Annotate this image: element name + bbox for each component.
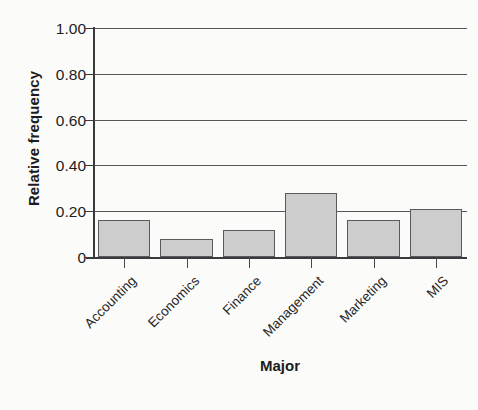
y-tick-mark — [85, 211, 93, 212]
gridline-0-8 — [93, 74, 467, 75]
y-tick-label: 0.20 — [28, 204, 86, 220]
gridline-1 — [93, 28, 467, 29]
y-tick-mark — [85, 120, 93, 121]
y-tick-label: 0.40 — [28, 158, 86, 174]
bar-management — [285, 193, 337, 257]
y-tick-label: 1.00 — [28, 21, 86, 37]
gridline-0-6 — [93, 120, 467, 121]
gridline-0-4 — [93, 165, 467, 166]
y-tick-mark — [85, 28, 93, 29]
bar-mis — [410, 209, 462, 257]
y-tick-mark — [85, 165, 93, 166]
x-axis-tick-labels: Accounting Economics Finance Management … — [93, 257, 478, 347]
y-tick-label: 0.80 — [28, 67, 86, 83]
bar-marketing — [347, 220, 399, 257]
y-tick-label: 0.60 — [28, 113, 86, 129]
y-tick-mark — [85, 257, 93, 258]
bar-accounting — [98, 220, 150, 257]
plot-area — [93, 28, 467, 257]
x-axis-title: Major — [93, 357, 467, 374]
bar-finance — [223, 230, 275, 257]
bar-economics — [160, 239, 212, 257]
y-tick-mark — [85, 74, 93, 75]
y-axis-line — [93, 27, 95, 258]
bar-chart-figure: Relative frequency 1.00 0.80 0.60 0.40 0… — [0, 0, 478, 410]
y-tick-label: 0 — [28, 250, 86, 266]
